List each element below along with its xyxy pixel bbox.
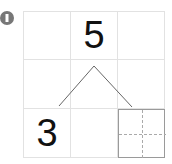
bond-lines xyxy=(23,11,165,158)
number-bond-grid: 5 3 xyxy=(23,11,165,158)
problem-number-marker xyxy=(0,11,14,25)
